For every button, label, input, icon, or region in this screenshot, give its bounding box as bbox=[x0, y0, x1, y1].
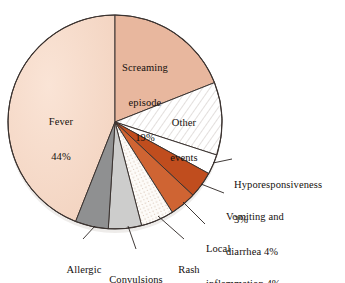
slice-label-fever-value: 44% bbox=[30, 151, 92, 163]
slice-label-allergic-line1: Allergic bbox=[55, 264, 113, 276]
slice-label-fever-name: Fever bbox=[30, 116, 92, 128]
slice-label-local-line1: Local bbox=[206, 243, 314, 255]
slice-label-local-line2: inflammation 4% bbox=[206, 278, 314, 283]
slice-label-convulsions: Convulsions 5% bbox=[105, 250, 167, 283]
leader-line-local-inflammation bbox=[183, 202, 205, 224]
slice-label-rash: Rash 5% bbox=[168, 240, 210, 283]
slice-label-rash-name: Rash bbox=[168, 264, 210, 276]
slice-label-allergic-reactions: Allergic reactions 5% bbox=[55, 240, 113, 283]
slice-label-local-inflammation: Local inflammation 4% bbox=[206, 219, 314, 283]
slice-label-convulsions-name: Convulsions bbox=[105, 274, 167, 283]
pie-chart-figure: Fever 44% Screaming episode 19% Other ev… bbox=[0, 0, 345, 283]
slice-label-other-events: Other events bbox=[158, 93, 210, 187]
leader-line-rash bbox=[158, 216, 184, 239]
slice-label-other-line1: Other bbox=[158, 117, 210, 129]
slice-label-fever: Fever 44% bbox=[30, 92, 92, 186]
slice-label-other-line2: events bbox=[158, 152, 210, 164]
slice-label-screaming-line1: Screaming bbox=[108, 62, 182, 74]
